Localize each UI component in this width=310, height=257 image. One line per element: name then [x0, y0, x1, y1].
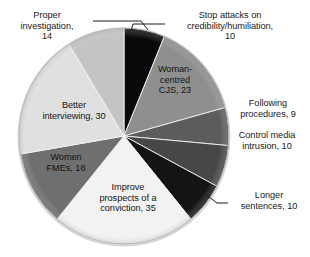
slice-label-proper-investigation: Proper investigation, 14 — [4, 10, 90, 42]
slice-label-women-fmes: Women FMEs, 18 — [32, 152, 100, 173]
slice-label-following-procedures: Following procedures, 9 — [228, 98, 308, 119]
slice-label-woman-centred-cjs: Woman- centred CJS, 23 — [146, 64, 204, 96]
slice-label-stop-attacks: Stop attacks on credibility/humiliation,… — [166, 10, 294, 42]
slice-label-control-media-intrusion: Control media intrusion, 10 — [226, 130, 308, 151]
slice-label-longer-sentences: Longer sentences, 10 — [230, 190, 308, 211]
slice-label-better-interviewing: Better interviewing, 30 — [30, 100, 118, 121]
pie-chart: Proper investigation, 14 Stop attacks on… — [0, 0, 310, 257]
slice-label-improve-prospects: Improve prospects of a conviction, 35 — [82, 182, 174, 214]
